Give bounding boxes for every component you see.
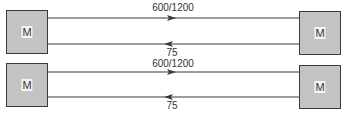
left-modem-node-1: M <box>6 10 48 54</box>
forward-speed-label: 600/1200 <box>152 59 194 69</box>
node-label: M <box>21 26 32 38</box>
return-speed-label: 75 <box>166 101 177 111</box>
right-modem-node-1: M <box>299 11 341 55</box>
node-label: M <box>314 81 325 93</box>
return-speed-label: 75 <box>166 48 177 58</box>
forward-speed-label: 600/1200 <box>152 3 194 13</box>
left-modem-node-2: M <box>6 63 48 107</box>
node-label: M <box>21 79 32 91</box>
node-label: M <box>314 27 325 39</box>
right-modem-node-2: M <box>299 65 341 109</box>
modem-link-diagram: M M M M 600/1200 75 600/1200 75 <box>0 0 346 119</box>
